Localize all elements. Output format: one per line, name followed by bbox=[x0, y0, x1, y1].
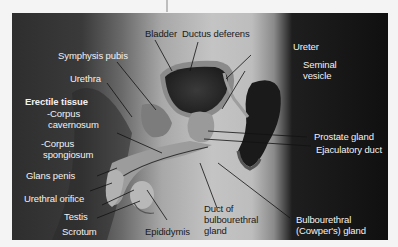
label-bladder: Bladder bbox=[145, 28, 177, 39]
label-duct-bulbourethral-line1: Duct of bbox=[204, 203, 233, 214]
label-urethral-orifice: Urethral orifice bbox=[24, 193, 84, 204]
label-bulbourethral-gland-line1: Bulbourethral bbox=[296, 214, 351, 225]
glans bbox=[106, 170, 124, 207]
label-seminal-vesicle-line2: vesicle bbox=[303, 70, 331, 81]
prostate bbox=[187, 111, 214, 142]
label-testis: Testis bbox=[64, 211, 88, 222]
label-epididymis: Epididymis bbox=[145, 226, 190, 237]
label-urethra: Urethra bbox=[70, 73, 101, 84]
label-ductus-deferens: Ductus deferens bbox=[182, 28, 250, 39]
seminal-vesicle bbox=[238, 80, 281, 167]
label-seminal-vesicle-line1: Seminal bbox=[303, 59, 337, 70]
label-duct-bulbourethral-line2: bulbourethral bbox=[204, 214, 258, 225]
label-corpus-spongiosum-line1: -Corpus bbox=[41, 138, 74, 149]
label-duct-bulbourethral-line3: gland bbox=[204, 225, 227, 236]
label-prostate-gland: Prostate gland bbox=[314, 131, 374, 142]
label-glans-penis: Glans penis bbox=[26, 170, 75, 181]
label-ejaculatory-duct: Ejaculatory duct bbox=[316, 144, 382, 155]
anatomy-figure: Bladder Ductus deferens Ureter Seminal v… bbox=[12, 13, 388, 240]
label-bulbourethral-gland-line2: (Cowper's) gland bbox=[296, 225, 366, 236]
label-corpus-cavernosum-line2: cavernosum bbox=[48, 119, 99, 130]
label-symphysis-pubis: Symphysis pubis bbox=[58, 50, 128, 61]
label-corpus-cavernosum-line1: -Corpus bbox=[47, 108, 80, 119]
label-scrotum: Scrotum bbox=[62, 226, 97, 237]
scan-artifact-mark bbox=[166, 0, 168, 12]
symphysis bbox=[141, 104, 172, 137]
label-corpus-spongiosum-line2: spongiosum bbox=[43, 149, 93, 160]
label-ureter: Ureter bbox=[293, 41, 319, 52]
label-erectile-tissue: Erectile tissue bbox=[25, 96, 88, 107]
